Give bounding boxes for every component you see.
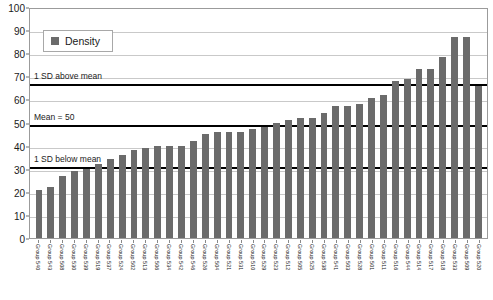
bar-slot [164,9,176,238]
x-tick-label: Group 539 [83,244,89,270]
x-tick-label: Group 502 [130,244,136,270]
x-tick-label: Group 505 [297,244,303,270]
x-tick-mark [133,240,134,243]
x-label-slot: Group 501 [366,240,378,300]
x-label-slot: Group 504 [211,240,223,300]
x-tick-label: Group 538 [321,244,327,270]
chart-page: 0102030405060708090100 1 SD above meanMe… [0,0,493,300]
x-tick-label: Group 526 [202,244,208,270]
y-tick-label: 80 [1,49,25,60]
x-tick-mark [169,240,170,243]
bar [392,81,399,238]
bar [142,148,149,238]
bar [427,69,434,238]
x-tick-mark [336,240,337,243]
x-label-slot: Group 539 [80,240,92,300]
bar [463,37,470,238]
x-tick-mark [86,240,87,243]
x-label-slot: Group 526 [199,240,211,300]
bar-slot [449,9,461,238]
bar [475,86,482,238]
bar [119,155,126,238]
y-tick-label: 0 [1,234,25,245]
bar [166,146,173,238]
bar-slot [472,9,484,238]
x-tick-label: Group 540 [35,244,41,270]
x-label-slot: Group 533 [449,240,461,300]
x-tick-mark [181,240,182,243]
x-tick-label: Group 501 [369,244,375,270]
bar [226,132,233,238]
bar [190,141,197,238]
x-tick-label: Group 511 [381,244,387,270]
x-tick-label: Group 508 [59,244,65,270]
bar-slot [294,9,306,238]
x-tick-mark [157,240,158,243]
bar [273,123,280,239]
bar-slot [247,9,259,238]
bar [36,190,43,239]
y-tick-label: 50 [1,118,25,129]
bar [154,146,161,238]
x-label-slot: Group 518 [437,240,449,300]
x-tick-mark [253,240,254,243]
bar [249,129,256,238]
bar-slot [401,9,413,238]
x-tick-label: Group 504 [214,244,220,270]
x-label-slot: Group 512 [282,240,294,300]
bar [285,120,292,238]
bar-slot [187,9,199,238]
bar [356,104,363,238]
x-tick-label: Group 530 [71,244,77,270]
bar-slot [306,9,318,238]
x-label-slot: Group 521 [223,240,235,300]
bar-slot [128,9,140,238]
x-tick-label: Group 528 [357,244,363,270]
x-tick-label: Group 510 [250,244,256,270]
x-label-slot: Group 529 [259,240,271,300]
x-label-slot: Group 510 [247,240,259,300]
bar [237,132,244,238]
x-tick-mark [396,240,397,243]
x-tick-mark [62,240,63,243]
x-tick-mark [372,240,373,243]
x-tick-label: Group 518 [440,244,446,270]
x-tick-label: Group 542 [178,244,184,270]
bar-slot [413,9,425,238]
x-tick-label: Group 533 [452,244,458,270]
x-tick-mark [98,240,99,243]
y-axis: 0102030405060708090100 [0,8,29,239]
x-tick-label: Group 541 [333,244,339,270]
x-tick-mark [348,240,349,243]
x-label-slot: Group 525 [306,240,318,300]
x-label-slot: Group 544 [402,240,414,300]
bar-slot [377,9,389,238]
x-tick-mark [217,240,218,243]
bar-slot [437,9,449,238]
bar [321,113,328,238]
x-label-slot: Group 543 [44,240,56,300]
x-tick-mark [324,240,325,243]
x-tick-label: Group 519 [95,244,101,270]
x-label-slot: Group 511 [378,240,390,300]
x-tick-label: Group 503 [345,244,351,270]
x-tick-mark [193,240,194,243]
bar [59,176,66,238]
x-tick-label: Group 506 [154,244,160,270]
x-tick-mark [360,240,361,243]
x-label-slot: Group 540 [32,240,44,300]
x-tick-label: Group 520 [476,244,482,270]
x-label-slot: Group 524 [115,240,127,300]
bar [202,134,209,238]
bar-slot [271,9,283,238]
x-tick-label: Group 534 [166,244,172,270]
x-tick-mark [205,240,206,243]
bar-slot [116,9,128,238]
bar [95,164,102,238]
x-label-slot: Group 508 [56,240,68,300]
x-tick-label: Group 517 [428,244,434,270]
x-tick-mark [74,240,75,243]
bar [309,118,316,238]
legend-label-density: Density [65,35,100,47]
bar [214,132,221,238]
